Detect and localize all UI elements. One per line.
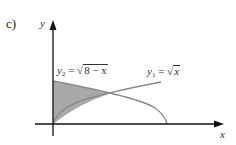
curve-y2-label: y2 = √8 − x (57, 64, 108, 78)
curve-y1-sub: 1 (152, 71, 156, 79)
x-axis-label: x (220, 128, 225, 140)
curve-y2-sub: 2 (62, 70, 66, 78)
y-axis-label: y (40, 17, 45, 29)
curve-y1-expr: x (173, 65, 180, 76)
shaded-region (53, 81, 110, 124)
curve-y2-expr: 8 − x (83, 64, 108, 75)
plot-area (0, 0, 236, 145)
x-axis-arrow-icon (214, 121, 224, 128)
y-axis-arrow-icon (50, 20, 57, 30)
curve-y1-label: y1 = √x (147, 65, 180, 79)
